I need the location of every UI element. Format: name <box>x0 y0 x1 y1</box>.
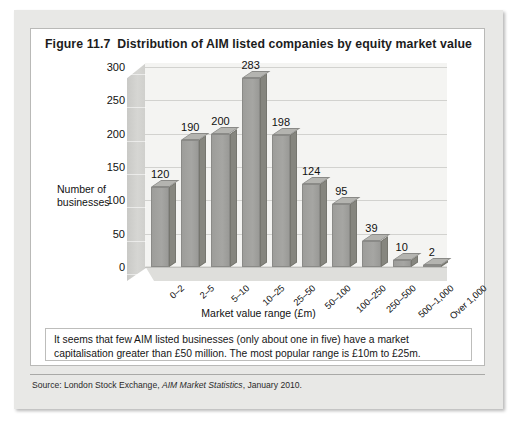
wall-rule <box>127 241 146 242</box>
bar-side-face <box>230 129 237 267</box>
bar-slot: 120 <box>151 63 169 267</box>
bar-value-label: 95 <box>325 185 357 197</box>
x-axis-tick: 2–5 <box>198 283 216 301</box>
y-axis-tick: 0 <box>91 261 125 273</box>
bar-value-label: 200 <box>204 115 236 127</box>
source-suffix: , January 2010. <box>243 380 302 390</box>
bar-value-label: 124 <box>295 165 327 177</box>
wall-rule <box>127 207 146 208</box>
y-axis-tick: 200 <box>91 128 125 140</box>
bar-value-label: 190 <box>174 121 206 133</box>
bar-slot: 95 <box>332 63 350 267</box>
bar-slot: 283 <box>242 63 260 267</box>
wall-rule <box>127 274 146 275</box>
bar-chart: Number ofbusinesses 050100150200250300 1… <box>31 55 486 327</box>
bar-slot: 190 <box>181 63 199 267</box>
x-axis-tick-labels: 0–22–55–1010–2525–5050–100100–250250–500… <box>127 281 447 327</box>
chart-floor <box>145 266 447 281</box>
bar <box>242 78 260 267</box>
bar <box>423 265 441 267</box>
y-axis-tick: 50 <box>91 228 125 240</box>
bar-slot: 198 <box>272 63 290 267</box>
bar-slot: 10 <box>393 63 411 267</box>
y-axis-tick: 100 <box>91 194 125 206</box>
bar <box>151 187 169 267</box>
source-divider <box>30 374 485 375</box>
source-publication: AIM Market Statistics <box>162 380 243 390</box>
bar-value-label: 2 <box>416 246 448 258</box>
figure-card: Figure 11.7Distribution of AIM listed co… <box>30 28 485 366</box>
source-prefix: Source: London Stock Exchange, <box>32 380 160 390</box>
bar-side-face <box>199 136 206 267</box>
figure-title: Figure 11.7Distribution of AIM listed co… <box>45 37 474 51</box>
wall-rule <box>127 74 146 75</box>
x-axis-tick: 5–10 <box>229 283 251 304</box>
y-axis-tick: 250 <box>91 94 125 106</box>
bar <box>332 204 350 267</box>
x-axis-tick: 25–50 <box>291 283 317 308</box>
figure-page: Figure 11.7Distribution of AIM listed co… <box>14 10 503 409</box>
bar <box>393 260 411 267</box>
bar <box>302 184 320 267</box>
bar-value-label: 120 <box>144 168 176 180</box>
y-axis-tick: 300 <box>91 61 125 73</box>
bar <box>362 241 380 267</box>
bar <box>211 134 229 267</box>
bar-slot: 200 <box>211 63 229 267</box>
bar-slot: 39 <box>362 63 380 267</box>
wall-rule <box>127 107 146 108</box>
commentary-text: It seems that few AIM listed businesses … <box>45 328 472 361</box>
figure-title-text: Distribution of AIM listed companies by … <box>117 37 472 51</box>
y-axis-tick: 150 <box>91 161 125 173</box>
plot-area: 1201902002831981249539102 <box>127 63 447 281</box>
gridline <box>145 267 447 268</box>
bar-value-label: 283 <box>235 59 267 71</box>
x-axis-tick: 0–2 <box>168 283 186 301</box>
wall-rule <box>127 174 146 175</box>
bar-value-label: 39 <box>355 222 387 234</box>
x-axis-title: Market value range (£m) <box>31 307 486 319</box>
bar-value-label: 198 <box>265 116 297 128</box>
bar-value-label: 10 <box>386 241 418 253</box>
bar-side-face <box>169 182 176 267</box>
x-axis-tick: 10–25 <box>261 283 287 308</box>
bar <box>272 135 290 267</box>
figure-number: Figure 11.7 <box>45 37 110 51</box>
source-text: Source: London Stock Exchange, AIM Marke… <box>32 380 302 390</box>
y-axis-tick-labels: 050100150200250300 <box>87 55 125 327</box>
wall-rule <box>127 141 146 142</box>
bar-series: 1201902002831981249539102 <box>145 63 447 267</box>
bar-side-face <box>290 130 297 267</box>
source-area: Source: London Stock Exchange, AIM Marke… <box>30 374 485 394</box>
bar <box>181 140 199 267</box>
bar-slot: 124 <box>302 63 320 267</box>
bar-slot: 2 <box>423 63 441 267</box>
bar-side-face <box>260 74 267 267</box>
